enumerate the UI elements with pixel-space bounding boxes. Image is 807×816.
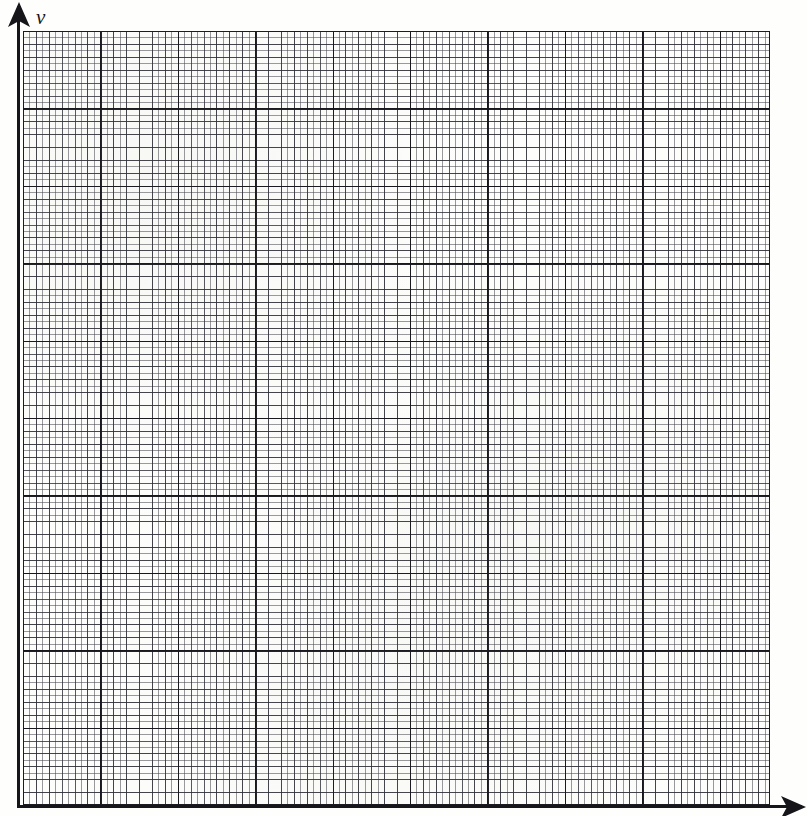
- grid-line-layers: [23, 31, 770, 805]
- y-axis-label: v: [36, 7, 45, 28]
- graph-grid: [23, 31, 770, 805]
- y-axis-line: [17, 6, 20, 807]
- horizontal-major-gridlines: [23, 31, 770, 805]
- x-axis-arrowhead-icon: [781, 795, 807, 816]
- x-axis-line: [17, 805, 802, 808]
- graph-paper-page: v: [0, 0, 807, 816]
- y-axis-arrowhead-icon: [7, 2, 31, 28]
